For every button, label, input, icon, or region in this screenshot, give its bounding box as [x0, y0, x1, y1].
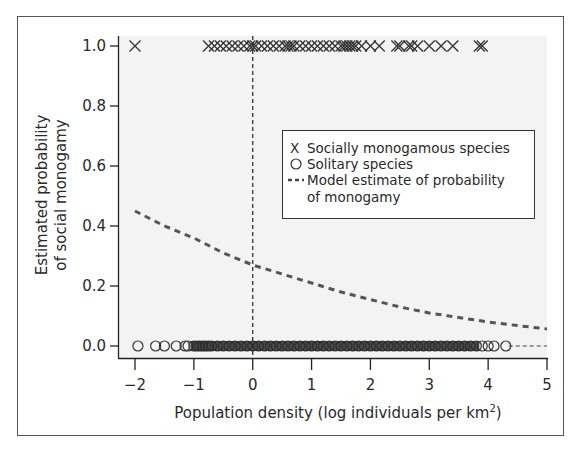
x-tick-label: −2 — [124, 376, 146, 394]
x-axis-label: Population density (log individuals per … — [174, 403, 501, 422]
legend-item-model: Model estimate of probability — [307, 172, 505, 188]
x-tick-label: 1 — [307, 376, 317, 394]
legend-x-symbol: X — [290, 140, 299, 156]
y-tick-label: 0.2 — [82, 277, 106, 295]
x-tick-label: −1 — [183, 376, 205, 394]
y-tick-label: 1.0 — [82, 37, 106, 55]
x-tick-label: 0 — [248, 376, 258, 394]
x-axis-ticks: −2−1012345 — [124, 358, 552, 394]
x-tick-label: 3 — [425, 376, 435, 394]
y-tick-label: 0.0 — [82, 337, 106, 355]
legend-item-model-line2: of monogamy — [307, 189, 401, 205]
y-axis-ticks: 0.00.20.40.60.81.0 — [82, 37, 119, 355]
dense-solitary-band — [191, 341, 479, 351]
y-tick-label: 0.4 — [82, 217, 106, 235]
y-axis-label-line1: Estimated probability — [33, 115, 51, 276]
y-axis-label-line2: of social monogamy — [52, 119, 70, 271]
legend-item-solitary: Solitary species — [307, 156, 413, 172]
legend: X Socially monogamous species Solitary s… — [283, 131, 535, 219]
x-tick-label: 2 — [366, 376, 376, 394]
x-tick-label: 5 — [542, 376, 552, 394]
y-tick-label: 0.6 — [82, 157, 106, 175]
x-tick-label: 4 — [483, 376, 493, 394]
chart: 0.00.20.40.60.81.0 −2−1012345 Population… — [0, 0, 575, 452]
y-tick-label: 0.8 — [82, 97, 106, 115]
legend-item-monogamous: Socially monogamous species — [307, 140, 510, 156]
